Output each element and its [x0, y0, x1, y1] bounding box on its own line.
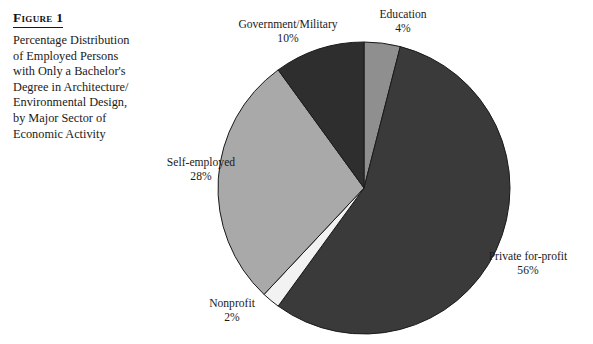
caption-line: by Major Sector of	[13, 111, 165, 127]
caption-line: Degree in Architecture/	[13, 80, 165, 96]
pie-chart-area: Government/Military 10% Education 4% Pri…	[165, 0, 593, 344]
slice-label-value: 10%	[213, 32, 363, 46]
slice-label-government-military: Government/Military 10%	[213, 18, 363, 45]
slice-label-name: Government/Military	[213, 18, 363, 32]
slice-label-nonprofit: Nonprofit 2%	[185, 297, 279, 324]
slice-label-name: Self-employed	[145, 156, 257, 170]
slice-label-name: Nonprofit	[185, 297, 279, 311]
caption-line: with Only a Bachelor's	[13, 64, 165, 80]
figure-caption-text: Percentage Distribution of Employed Pers…	[13, 33, 165, 142]
slice-label-name: Education	[360, 8, 446, 22]
slice-label-self-employed: Self-employed 28%	[145, 156, 257, 183]
slice-label-name: Private for-profit	[465, 250, 591, 264]
slice-label-value: 56%	[465, 264, 591, 278]
caption-line: Environmental Design,	[13, 95, 165, 111]
figure-page: Figure 1 Percentage Distribution of Empl…	[0, 0, 593, 344]
caption-line: of Employed Persons	[13, 49, 165, 65]
slice-label-private-for-profit: Private for-profit 56%	[465, 250, 591, 277]
slice-label-value: 2%	[185, 311, 279, 325]
figure-number-title: Figure 1	[13, 10, 63, 28]
caption-line: Economic Activity	[13, 127, 165, 143]
slice-label-value: 28%	[145, 170, 257, 184]
slice-label-value: 4%	[360, 22, 446, 36]
pie-slice-group	[218, 42, 510, 334]
figure-caption-block: Figure 1 Percentage Distribution of Empl…	[13, 8, 165, 142]
slice-label-education: Education 4%	[360, 8, 446, 35]
caption-line: Percentage Distribution	[13, 33, 165, 49]
